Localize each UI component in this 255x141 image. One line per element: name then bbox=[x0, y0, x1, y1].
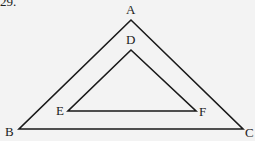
vertex-label-d: D bbox=[126, 33, 135, 46]
vertex-label-c: C bbox=[245, 126, 254, 139]
vertex-label-f: F bbox=[199, 105, 206, 118]
vertex-label-a: A bbox=[126, 3, 135, 16]
triangle-diagram bbox=[0, 0, 255, 141]
vertex-label-e: E bbox=[56, 104, 64, 117]
inner-triangle-def bbox=[68, 50, 196, 111]
vertex-label-b: B bbox=[5, 125, 14, 138]
